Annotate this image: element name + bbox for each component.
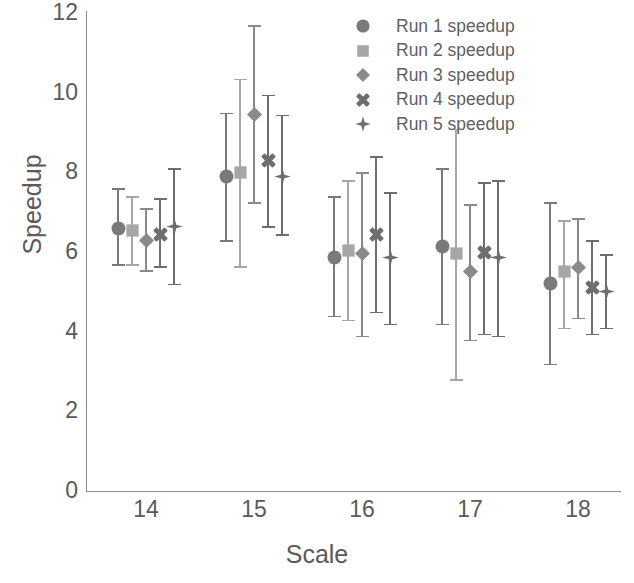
error-bar-cap xyxy=(126,264,139,266)
error-bar-cap xyxy=(248,202,261,204)
marker-star-icon xyxy=(598,283,615,300)
error-bar-cap xyxy=(342,180,355,182)
error-bar-cap xyxy=(586,240,599,242)
error-bar-cap xyxy=(478,334,491,336)
speedup-vs-scale-chart: Speedup Scale 024681012 1415161718 Run 1… xyxy=(0,0,634,583)
error-bar-cap xyxy=(384,192,397,194)
error-bar-cap xyxy=(140,270,153,272)
legend-marker-diamond-icon xyxy=(352,66,374,84)
error-bar-cap xyxy=(262,226,275,228)
legend-item-label: Run 4 speedup xyxy=(396,89,515,110)
error-bar-cap xyxy=(262,95,275,97)
legend-item-label: Run 2 speedup xyxy=(396,40,515,61)
error-bar-cap xyxy=(436,168,449,170)
y-tick-label: 4 xyxy=(38,320,78,343)
marker-diamond-icon xyxy=(354,245,371,262)
legend-item-run-1[interactable]: Run 1 speedup xyxy=(352,14,552,39)
y-tick-label: 8 xyxy=(38,160,78,183)
error-bar-cap xyxy=(558,220,571,222)
error-bar-cap xyxy=(436,324,449,326)
marker-diamond-icon xyxy=(246,106,263,123)
marker-star-icon xyxy=(166,218,183,235)
error-bar-cap xyxy=(586,334,599,336)
x-tick-label: 14 xyxy=(116,498,176,521)
legend-marker-circle-icon xyxy=(352,17,374,35)
error-bar-cap xyxy=(464,204,477,206)
x-tick-label: 15 xyxy=(224,498,284,521)
error-bar-cap xyxy=(478,182,491,184)
x-tick-label: 16 xyxy=(332,498,392,521)
x-axis-title: Scale xyxy=(0,540,634,569)
error-bar-cap xyxy=(126,196,139,198)
marker-diamond-icon xyxy=(570,259,587,276)
error-bar-cap xyxy=(328,196,341,198)
y-tick-label: 12 xyxy=(38,1,78,24)
error-bar-cap xyxy=(558,328,571,330)
error-bar-cap xyxy=(572,218,585,220)
error-bar-cap xyxy=(492,180,505,182)
legend-item-run-4[interactable]: Run 4 speedup xyxy=(352,88,552,113)
legend-marker-cross-icon xyxy=(352,91,374,109)
x-axis-line xyxy=(86,491,621,492)
error-bar-cap xyxy=(112,264,125,266)
marker-cross-icon xyxy=(260,152,277,169)
error-bar-cap xyxy=(370,312,383,314)
error-bar-cap xyxy=(168,168,181,170)
x-tick-label: 18 xyxy=(548,498,608,521)
error-bar-cap xyxy=(328,316,341,318)
error-bar-cap xyxy=(234,266,247,268)
marker-square-icon xyxy=(232,164,249,181)
legend-item-run-5[interactable]: Run 5 speedup xyxy=(352,112,552,137)
error-bar-cap xyxy=(450,379,463,381)
error-bar-cap xyxy=(492,336,505,338)
error-bar-cap xyxy=(154,198,167,200)
error-bar-cap xyxy=(276,115,289,117)
error-bar-cap xyxy=(220,240,233,242)
legend-item-label: Run 3 speedup xyxy=(396,65,515,86)
y-tick-label: 10 xyxy=(38,81,78,104)
marker-star-icon xyxy=(274,168,291,185)
legend-item-run-3[interactable]: Run 3 speedup xyxy=(352,63,552,88)
legend-marker-square-icon xyxy=(352,42,374,60)
error-bar-cap xyxy=(572,318,585,320)
chart-legend: Run 1 speedupRun 2 speedupRun 3 speedupR… xyxy=(352,14,552,137)
legend-item-label: Run 5 speedup xyxy=(396,114,515,135)
error-bar-cap xyxy=(544,364,557,366)
y-tick-label: 6 xyxy=(38,240,78,263)
marker-cross-icon xyxy=(368,226,385,243)
error-bar-cap xyxy=(248,25,261,27)
legend-item-label: Run 1 speedup xyxy=(396,16,515,37)
error-bar-cap xyxy=(220,113,233,115)
error-bar-cap xyxy=(600,328,613,330)
error-bar-cap xyxy=(370,156,383,158)
x-tick-label: 17 xyxy=(440,498,500,521)
error-bar-cap xyxy=(342,320,355,322)
y-tick-label: 0 xyxy=(38,479,78,502)
error-bar-cap xyxy=(234,79,247,81)
error-bar-cap xyxy=(276,234,289,236)
y-tick-label: 2 xyxy=(38,399,78,422)
error-bar-cap xyxy=(464,340,477,342)
marker-diamond-icon xyxy=(462,263,479,280)
error-bar-cap xyxy=(154,266,167,268)
error-bar-cap xyxy=(600,254,613,256)
marker-square-icon xyxy=(448,245,465,262)
marker-star-icon xyxy=(382,249,399,266)
marker-star-icon xyxy=(490,249,507,266)
error-bar-cap xyxy=(544,202,557,204)
error-bar-cap xyxy=(356,336,369,338)
legend-marker-star-icon xyxy=(352,115,374,133)
error-bar-cap xyxy=(112,188,125,190)
error-bar-cap xyxy=(384,324,397,326)
legend-item-run-2[interactable]: Run 2 speedup xyxy=(352,39,552,64)
error-bar-cap xyxy=(168,284,181,286)
error-bar-cap xyxy=(140,208,153,210)
error-bar-cap xyxy=(356,172,369,174)
